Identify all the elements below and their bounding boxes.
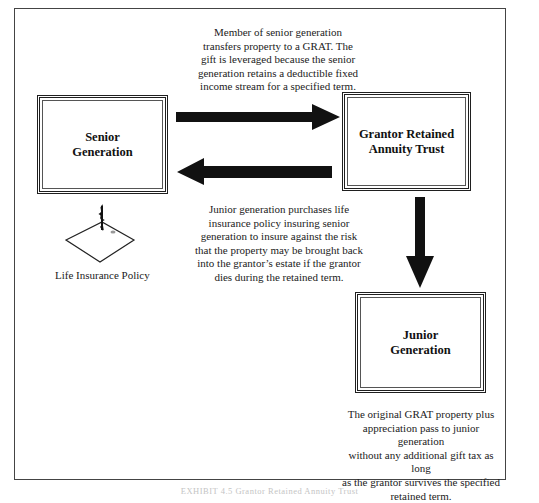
arrow-down-icon — [404, 196, 436, 290]
arrow-right-icon — [174, 102, 342, 132]
senior-generation-node: Senior Generation — [37, 95, 168, 194]
junior-generation-node: Junior Generation — [355, 292, 486, 393]
figure-caption: EXHIBIT 4.5 Grantor Retained Annuity Tru… — [0, 486, 539, 496]
junior-generation-label: Junior Generation — [390, 328, 450, 358]
transfer-note: Member of senior generation transfers pr… — [178, 26, 378, 94]
life-insurance-policy-label: Life Insurance Policy — [55, 269, 150, 281]
senior-generation-label: Senior Generation — [72, 130, 132, 160]
arrow-left-icon — [176, 157, 334, 187]
grat-label: Grantor Retained Annuity Trust — [359, 127, 454, 157]
life-insurance-policy-icon — [62, 204, 138, 266]
grat-node: Grantor Retained Annuity Trust — [342, 92, 471, 191]
insurance-note: Junior generation purchases life insuran… — [174, 203, 384, 285]
